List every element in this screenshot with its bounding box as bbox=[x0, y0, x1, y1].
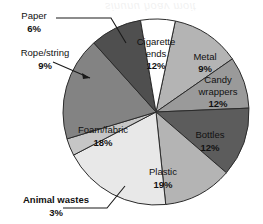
pie-label-bottles-line1: Bottles bbox=[195, 129, 224, 140]
pie-label-paper-line1: Paper bbox=[21, 10, 46, 21]
pie-label-plastic-line1: Plastic bbox=[149, 166, 177, 177]
pie-label-rope-string: Rope/string 9% bbox=[21, 47, 70, 71]
pie-label-paper: Paper 6% bbox=[21, 10, 46, 34]
pie-label-cigarette-ends-line2: ends bbox=[146, 48, 167, 59]
pie-label-metal-line1: Metal bbox=[193, 51, 216, 62]
pie-label-bottles-pct: 12% bbox=[200, 142, 220, 153]
pie-label-cigarette-ends-line1: Cigarette bbox=[137, 36, 176, 47]
pie-label-foam-fabric-line1: Foam/fabric bbox=[78, 124, 128, 135]
pie-label-rope-string-pct: 9% bbox=[38, 60, 52, 71]
pie-chart: sinunu hoav moit Cigarette ends 12% Meta bbox=[0, 0, 263, 224]
pie-label-animal-wastes-line1: Animal wastes bbox=[23, 194, 89, 205]
pie-label-candy-wrappers-line1: Candy bbox=[204, 74, 232, 85]
pie-label-candy-wrappers-pct: 12% bbox=[208, 98, 228, 109]
pie-label-metal-pct: 9% bbox=[198, 63, 212, 74]
pie-label-foam-fabric-pct: 18% bbox=[93, 137, 113, 148]
pie-label-animal-wastes-pct: 3% bbox=[49, 207, 63, 218]
pie-chart-canvas: Cigarette ends 12% Metal 9% Candy wrappe… bbox=[0, 0, 263, 224]
pie-label-candy-wrappers-line2: wrappers bbox=[197, 86, 237, 97]
pie-label-cigarette-ends-pct: 12% bbox=[146, 60, 166, 71]
pie-label-plastic-pct: 19% bbox=[153, 179, 173, 190]
pie-label-rope-string-line1: Rope/string bbox=[21, 47, 70, 58]
pie-label-animal-wastes: Animal wastes 3% bbox=[23, 194, 89, 218]
pie-label-paper-pct: 6% bbox=[27, 23, 41, 34]
